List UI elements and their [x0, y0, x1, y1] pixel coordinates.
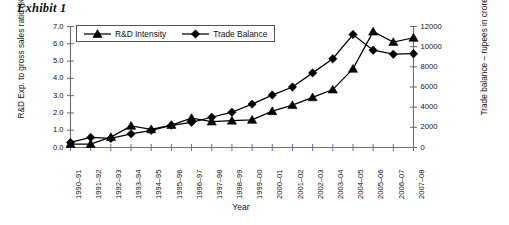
y-axis-left-tick-label: 3.0 [42, 91, 64, 100]
x-axis-tick-label: 1992–93 [114, 153, 123, 199]
y-axis-left-tick-label: 5.0 [42, 56, 64, 65]
data-point-marker [248, 100, 256, 108]
x-axis-tick-label: 2004–05 [356, 153, 365, 199]
x-axis-tick-label: 2001–02 [296, 153, 305, 199]
series-line-r-d-intensity [71, 32, 414, 144]
x-axis-title: Year [196, 203, 286, 213]
y-axis-right-tick-label: 12000 [421, 22, 455, 31]
series-line-trade-balance [71, 35, 414, 143]
y-axis-left-title: R&D Exp. to gross sales ratio (%) [17, 0, 27, 123]
y-axis-right-tick-label: 6000 [421, 82, 455, 91]
data-point-marker [228, 108, 236, 116]
chart-legend: R&D IntensityTrade Balance [76, 25, 275, 42]
data-point-marker [308, 93, 317, 101]
data-point-marker [86, 133, 94, 141]
x-axis-tick-label: 2005–06 [376, 153, 385, 199]
data-point-marker [127, 130, 135, 138]
data-point-marker [308, 69, 316, 77]
x-axis-tick-label: 2007–08 [417, 153, 426, 199]
x-axis-tick-label: 1996–97 [195, 153, 204, 199]
x-axis-tick-label: 2003–04 [336, 153, 345, 199]
x-axis-tick-label: 2006–07 [397, 153, 406, 199]
y-axis-right-tick-label: 8000 [421, 62, 455, 71]
data-point-marker [288, 101, 297, 109]
y-axis-right-title: Trade balance – rupees in crores [480, 0, 490, 121]
data-point-marker [409, 33, 418, 41]
x-axis-tick-label: 1998–99 [235, 153, 244, 199]
y-axis-left-tick-label: 2.0 [42, 108, 64, 117]
y-axis-left-tick-label: 6.0 [42, 39, 64, 48]
y-axis-right-tick-label: 10000 [421, 42, 455, 51]
y-axis-left-tick-label: 1.0 [42, 125, 64, 134]
y-axis-right-tick-label: 4000 [421, 102, 455, 111]
triangle-marker-icon [84, 29, 111, 39]
data-point-marker [126, 121, 135, 129]
data-point-marker [288, 83, 296, 91]
y-axis-left-tick-label: 4.0 [42, 73, 64, 82]
x-axis-tick-label: 1997–98 [215, 153, 224, 199]
line-chart: R&D Exp. to gross sales ratio (%) Trade … [0, 0, 509, 225]
x-axis-tick-label: 1993–94 [134, 153, 143, 199]
x-axis-tick-label: 1994–95 [154, 153, 163, 199]
x-axis-tick-label: 1999–00 [255, 153, 264, 199]
legend-item: Trade Balance [182, 29, 267, 39]
legend-item: R&D Intensity [84, 29, 166, 39]
legend-label: R&D Intensity [115, 29, 166, 39]
data-point-marker [409, 50, 417, 58]
y-axis-right-tick-label: 2000 [421, 122, 455, 131]
y-axis-left-tick-label: 0.0 [42, 143, 64, 152]
diamond-marker-icon [182, 29, 209, 39]
data-point-marker [147, 126, 155, 134]
data-point-marker [348, 64, 357, 72]
x-axis-tick-label: 1990–91 [74, 153, 83, 199]
y-axis-right-tick-label: 0 [421, 143, 455, 152]
x-axis-tick-label: 1991–92 [94, 153, 103, 199]
x-axis-tick-label: 2002–03 [316, 153, 325, 199]
legend-label: Trade Balance [213, 29, 267, 39]
data-point-marker [369, 27, 378, 35]
x-axis-tick-label: 2000–01 [275, 153, 284, 199]
data-point-marker [389, 50, 397, 58]
data-series [66, 27, 418, 147]
data-point-marker [268, 91, 276, 99]
data-point-marker [208, 113, 216, 121]
x-axis-tick-label: 1995–96 [175, 153, 184, 199]
y-axis-left-tick-label: 7.0 [42, 22, 64, 31]
